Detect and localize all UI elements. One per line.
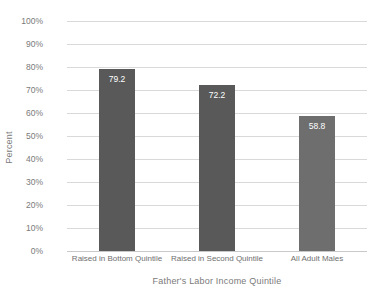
x-axis-category-label: Raised in Bottom Quintile (67, 255, 167, 264)
y-axis-tick-label: 40% (0, 155, 43, 164)
y-axis-tick-label: 70% (0, 86, 43, 95)
y-axis-tick-label: 20% (0, 201, 43, 210)
y-axis-tick-label: 0% (0, 247, 43, 256)
y-axis-tick-label: 50% (0, 132, 43, 141)
bar-value-label: 58.8 (299, 122, 335, 131)
plot-area: 0%10%20%30%40%50%60%70%80%90%100% 79.272… (67, 21, 367, 251)
bar: 79.2 (99, 69, 135, 251)
bar: 72.2 (199, 85, 235, 251)
gridline (67, 251, 367, 252)
y-axis-tick-label: 90% (0, 40, 43, 49)
x-axis-title: Father's Labor Income Quintile (67, 276, 367, 286)
bar-chart: Percent 0%10%20%30%40%50%60%70%80%90%100… (0, 0, 384, 295)
y-axis-tick-label: 60% (0, 109, 43, 118)
bars-layer: 79.272.258.8 (67, 21, 367, 251)
bar-value-label: 79.2 (99, 75, 135, 84)
y-axis-tick-label: 100% (0, 17, 43, 26)
bar-value-label: 72.2 (199, 91, 235, 100)
y-axis-tick-label: 80% (0, 63, 43, 72)
x-axis-category-label: Raised in Second Quintile (167, 255, 267, 264)
y-axis-tick-label: 10% (0, 224, 43, 233)
x-axis-category-label: All Adult Males (267, 255, 367, 264)
bar: 58.8 (299, 116, 335, 251)
y-axis-tick-label: 30% (0, 178, 43, 187)
